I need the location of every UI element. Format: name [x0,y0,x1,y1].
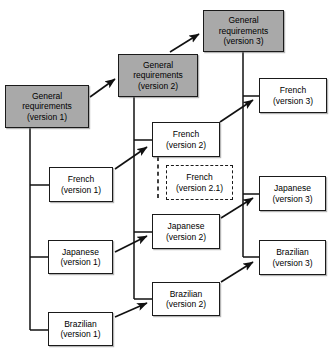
french-version-3[interactable]: French (version 3) [259,78,327,113]
node-label-line-2: (version 3) [272,258,312,269]
node-label-line-2: (version 1) [60,257,100,268]
node-label-line-1: French [280,85,306,96]
node-label-line-2: (version 3) [273,96,313,107]
arrow-gr-v1-to-gr-v2 [90,79,115,97]
node-label-line-2: (version 2) [166,299,206,310]
node-label-line-1: General [32,91,62,102]
arrow-japanese-v1-to-japanese-v2 [115,236,147,252]
node-label-line-2: (version 1) [61,185,101,196]
arrow-french-v1-to-french-v2 [115,147,147,169]
requirements-version-diagram: General requirements (version 1) General… [0,0,333,358]
brazilian-version-3[interactable]: Brazilian (version 3) [259,240,326,275]
trunk-general-requirements-v2 [134,97,152,299]
node-label-line-1: General [143,60,173,71]
node-label-line-1: French [186,172,212,183]
japanese-version-2[interactable]: Japanese (version 2) [152,214,220,249]
general-requirements-version-1[interactable]: General requirements (version 1) [5,85,89,128]
brazilian-version-1[interactable]: Brazilian (version 1) [48,312,113,346]
trunk-general-requirements-v1 [30,128,49,330]
node-label-line-1: Brazilian [170,289,203,300]
trunk-general-requirements-v3 [243,52,259,257]
arrow-japanese-v2-to-japanese-v3 [221,198,253,218]
node-label-line-2: (version 3) [272,194,312,205]
node-label-line-1: Japanese [168,221,205,232]
node-label-line-2: (version 2) [166,232,206,243]
node-label-line-1: Japanese [62,247,99,258]
general-requirements-version-2[interactable]: General requirements (version 2) [118,54,198,97]
node-label-line-3: (version 1) [27,112,67,123]
arrow-french-v2-to-french-v3 [220,100,253,122]
node-label-line-3: (version 2) [138,81,178,92]
general-requirements-version-3[interactable]: General requirements (version 3) [203,10,284,52]
node-label-line-1: General [228,15,258,26]
arrow-brazilian-v2-to-brazilian-v3 [221,262,253,282]
french-version-2-1[interactable]: French (version 2.1) [166,165,233,200]
french-version-1[interactable]: French (version 1) [49,167,113,202]
arrow-brazilian-v1-to-brazilian-v2 [115,303,147,317]
japanese-version-1[interactable]: Japanese (version 1) [48,240,113,274]
node-label-line-2: (version 2) [166,140,206,151]
node-label-line-1: French [173,129,199,140]
node-label-line-1: French [68,174,94,185]
french-version-2[interactable]: French (version 2) [152,122,220,157]
brazilian-version-2[interactable]: Brazilian (version 2) [152,282,220,316]
node-label-line-2: (version 1) [60,329,100,340]
node-label-line-1: Japanese [274,183,311,194]
arrow-gr-v2-to-gr-v3 [170,34,199,52]
node-label-line-1: Brazilian [276,247,309,258]
node-label-line-1: Brazilian [64,319,97,330]
japanese-version-3[interactable]: Japanese (version 3) [259,176,326,211]
node-label-line-2: requirements [22,101,72,112]
node-label-line-2: (version 2.1) [176,183,223,194]
node-label-line-2: requirements [219,26,269,37]
node-label-line-2: requirements [133,70,183,81]
node-label-line-3: (version 3) [223,36,263,47]
